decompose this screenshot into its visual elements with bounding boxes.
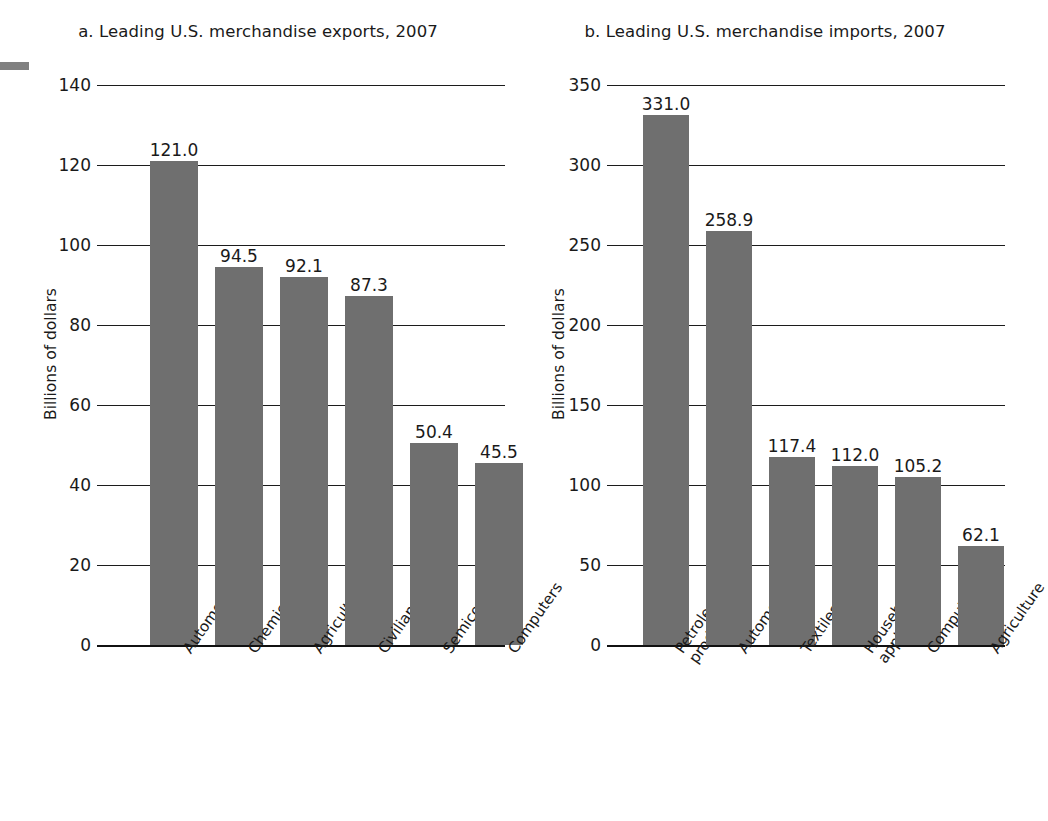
bar-value-label: 50.4 (415, 424, 453, 441)
bar[interactable]: 94.5 (215, 267, 263, 645)
y-axis-tick (97, 85, 110, 86)
chart-panel-imports: b. Leading U.S. merchandise imports, 200… (515, 0, 1030, 821)
gridline (110, 85, 505, 86)
y-axis-tick (97, 405, 110, 406)
y-axis-tick (607, 85, 620, 86)
y-axis-tick-label: 0 (590, 637, 601, 654)
y-axis-tick (607, 165, 620, 166)
y-axis-tick-label: 100 (59, 237, 91, 254)
bar[interactable]: 121.0 (150, 161, 198, 645)
bar-value-label: 87.3 (350, 277, 388, 294)
bar-value-label: 112.0 (831, 447, 880, 464)
y-axis-tick (97, 485, 110, 486)
y-axis-title-imports: Billions of dollars (550, 288, 568, 420)
bar[interactable]: 92.1 (280, 277, 328, 645)
bar-value-label: 45.5 (480, 444, 518, 461)
y-axis-tick (97, 165, 110, 166)
y-axis-tick-label: 300 (569, 157, 601, 174)
y-axis-tick-label: 150 (569, 397, 601, 414)
y-axis-tick (97, 565, 110, 566)
y-axis-tick-label: 60 (69, 397, 91, 414)
bar-value-label: 94.5 (220, 248, 258, 265)
y-axis-tick-label: 250 (569, 237, 601, 254)
plot-area-imports: 050100150200250300350331.0Petroleum prod… (620, 85, 1005, 645)
y-axis-tick-label: 50 (579, 557, 601, 574)
gridline (620, 85, 1005, 86)
bar-value-label: 62.1 (962, 527, 1000, 544)
y-axis-tick-label: 100 (569, 477, 601, 494)
bar[interactable]: 87.3 (345, 296, 393, 645)
bar-value-label: 117.4 (768, 438, 817, 455)
bar-value-label: 331.0 (642, 96, 691, 113)
y-axis-tick (607, 485, 620, 486)
bar[interactable]: 258.9 (706, 231, 752, 645)
y-axis-tick-label: 120 (59, 157, 91, 174)
y-axis-tick (97, 245, 110, 246)
y-axis-tick (607, 325, 620, 326)
page-title-exports: a. Leading U.S. merchandise exports, 200… (18, 22, 498, 41)
y-axis-tick-label: 80 (69, 317, 91, 334)
y-axis-tick (607, 565, 620, 566)
plot-area-exports: 020406080100120140121.0Automobiles94.5Ch… (110, 85, 505, 645)
bar[interactable]: 117.4 (769, 457, 815, 645)
bar-value-label: 105.2 (894, 458, 943, 475)
y-axis-tick (97, 325, 110, 326)
y-axis-title-exports: Billions of dollars (42, 288, 60, 420)
y-axis-tick-label: 200 (569, 317, 601, 334)
page-title-imports: b. Leading U.S. merchandise imports, 200… (515, 22, 1015, 41)
y-axis-tick-label: 0 (80, 637, 91, 654)
y-axis-tick-label: 140 (59, 77, 91, 94)
bar[interactable]: 50.4 (410, 443, 458, 645)
y-axis-tick-label: 20 (69, 557, 91, 574)
y-axis-tick-label: 350 (569, 77, 601, 94)
bar-value-label: 258.9 (705, 212, 754, 229)
bar-value-label: 121.0 (150, 142, 199, 159)
bar[interactable]: 331.0 (643, 115, 689, 645)
bar-value-label: 92.1 (285, 258, 323, 275)
bar[interactable]: 112.0 (832, 466, 878, 645)
y-axis-tick-label: 40 (69, 477, 91, 494)
chart-panel-exports: a. Leading U.S. merchandise exports, 200… (0, 0, 515, 821)
y-axis-tick (607, 245, 620, 246)
bar[interactable]: 105.2 (895, 477, 941, 645)
y-axis-tick (607, 405, 620, 406)
